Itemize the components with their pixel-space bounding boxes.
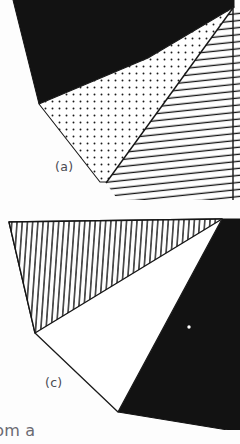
figure-c-highlight-dot	[187, 325, 190, 328]
figure-c-canvas	[0, 205, 240, 430]
document-page: (a)	[0, 0, 240, 444]
figure-a-canvas	[0, 0, 240, 200]
figure-a-caption: (a)	[55, 159, 73, 174]
footer-cropped-text: from a	[0, 424, 150, 444]
footer-cropped-text-label: from a	[0, 424, 150, 440]
figure-a	[0, 0, 240, 200]
figure-c-caption: (c)	[45, 375, 63, 390]
figure-c	[0, 205, 240, 430]
